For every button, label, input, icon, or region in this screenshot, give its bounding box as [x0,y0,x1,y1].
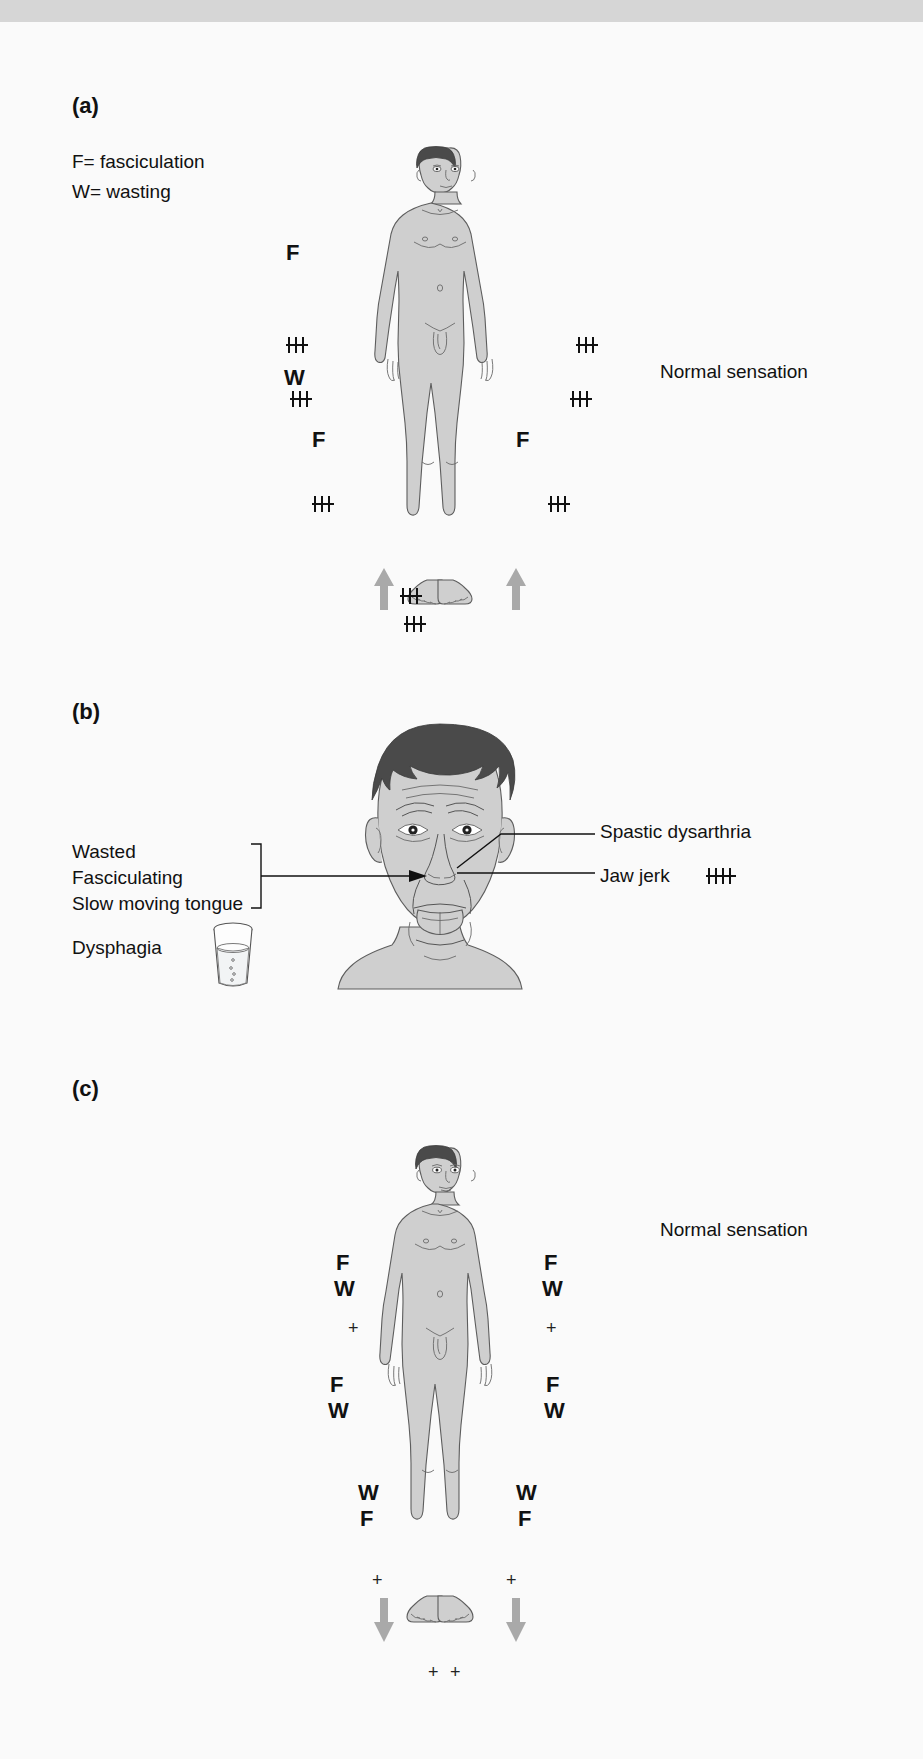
reflex-a-biceps-left [286,337,308,353]
mark-c-W-left-upper: W [334,1276,355,1302]
reflex-a-supinator-right [570,391,592,407]
panel-a-label: (a) [72,92,99,119]
reflex-a-ankle-left [400,588,422,604]
mark-c-F-right-leg: F [518,1506,531,1532]
page-top-band [0,0,923,22]
mark-c-W-left-mid: W [328,1398,349,1424]
reflex-c-biceps-left: + [348,1318,359,1339]
reflex-c-knee-left: + [372,1570,383,1591]
mark-c-F-left-mid: F [330,1372,343,1398]
label-fasciculating: Fasciculating [72,864,183,891]
reflex-a-knee-right [548,496,570,512]
mark-c-W-right-mid: W [544,1398,565,1424]
label-dysphagia: Dysphagia [72,934,162,961]
legend-wasting: W= wasting [72,178,171,205]
reflex-a-supinator-left [290,391,312,407]
leader-jaw-jerk [455,867,615,907]
reflex-a-knee-left [312,496,334,512]
reflex-a-biceps-right [576,337,598,353]
panel-c-label: (c) [72,1075,99,1102]
mark-c-W-right-leg: W [516,1480,537,1506]
mark-a-W-left-forearm: W [284,365,305,391]
panel-b-label: (b) [72,698,100,725]
label-slow-moving-tongue: Slow moving tongue [72,890,243,917]
glass-of-water-icon [205,920,261,992]
mark-c-W-left-leg: W [358,1480,379,1506]
reflex-c-biceps-right: + [546,1318,557,1339]
plantar-arrow-left-down [374,1598,394,1642]
reflex-c-ankle-left: + [428,1662,439,1683]
normal-sensation-a: Normal sensation [660,358,808,385]
body-figure-c [330,1110,570,1670]
reflex-c-knee-right: + [506,1570,517,1591]
plantar-arrow-right-down [506,1598,526,1642]
plantar-arrow-left-up [374,568,394,610]
mark-c-F-left-upper: F [336,1250,349,1276]
mark-c-F-right-upper: F [544,1250,557,1276]
label-wasted: Wasted [72,838,136,865]
mark-c-F-left-leg: F [360,1506,373,1532]
legend-fasciculation: F= fasciculation [72,148,205,175]
leader-left-tongue [245,840,445,920]
label-jaw-jerk: Jaw jerk [600,862,670,889]
mark-c-F-right-mid: F [546,1372,559,1398]
mark-c-W-right-upper: W [542,1276,563,1302]
figure-page: (a) F= fasciculation W= wasting Normal s… [0,22,923,1759]
reflex-c-ankle-right: + [450,1662,461,1683]
body-figure-a [330,110,570,640]
label-spastic-dysarthria: Spastic dysarthria [600,818,751,845]
plantar-arrow-right-up [506,568,526,610]
mark-a-F-left-thigh: F [312,427,325,453]
normal-sensation-c: Normal sensation [660,1216,808,1243]
mark-a-F-right-thigh: F [516,427,529,453]
reflex-jaw-jerk-grade [706,868,736,884]
mark-a-F-left-shoulder: F [286,240,299,266]
reflex-a-ankle-right [404,616,426,632]
